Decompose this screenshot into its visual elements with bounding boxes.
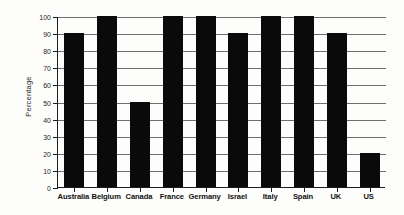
x-tick-label: Germany [188, 192, 220, 201]
y-tick-label: 40 [43, 116, 51, 123]
bar-australia [64, 33, 84, 187]
y-tick-mark [53, 68, 58, 69]
x-tick-label: Spain [293, 192, 313, 201]
bar-us [360, 153, 380, 187]
y-tick-label: 10 [43, 167, 51, 174]
x-tick-label: Israel [228, 192, 247, 201]
y-tick-mark [53, 34, 58, 35]
y-tick-label: 80 [43, 48, 51, 55]
y-tick-mark [53, 103, 58, 104]
y-tick-label: 60 [43, 82, 51, 89]
y-tick-label: 50 [43, 99, 51, 106]
x-tick-label: Canada [126, 192, 153, 201]
y-tick-mark [53, 154, 58, 155]
bar-uk [327, 33, 347, 187]
y-tick-label: 0 [47, 185, 51, 192]
bar-canada [130, 102, 150, 188]
x-tick-label: Australia [58, 192, 90, 201]
y-tick-label: 30 [43, 133, 51, 140]
y-axis-title: Percentage [24, 42, 33, 152]
bar-italy [261, 16, 281, 187]
y-tick-label: 20 [43, 150, 51, 157]
y-tick-mark [53, 17, 58, 18]
x-tick-label: US [363, 192, 373, 201]
x-tick-label: Italy [263, 192, 278, 201]
bar-spain [294, 16, 314, 187]
x-tick-label: Belgium [92, 192, 121, 201]
y-tick-mark [53, 120, 58, 121]
bar-belgium [97, 16, 117, 187]
x-tick-label: France [160, 192, 184, 201]
y-tick-mark [53, 188, 58, 189]
y-tick-label: 70 [43, 65, 51, 72]
y-tick-label: 100 [39, 14, 51, 21]
y-tick-mark [53, 85, 58, 86]
bar-france [163, 16, 183, 187]
bar-germany [196, 16, 216, 187]
bar-chart-figure: Percentage 0102030405060708090100 Austra… [0, 0, 404, 215]
y-tick-mark [53, 51, 58, 52]
x-tick-label: UK [330, 192, 341, 201]
y-tick-mark [53, 137, 58, 138]
plot-area: 0102030405060708090100 [57, 17, 385, 188]
y-tick-label: 90 [43, 31, 51, 38]
y-tick-mark [53, 171, 58, 172]
bar-israel [228, 33, 248, 187]
